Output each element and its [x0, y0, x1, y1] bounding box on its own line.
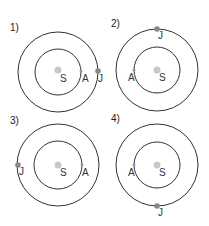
- diagram-4: 4) S A J: [111, 113, 198, 218]
- planet-a-label: A: [82, 167, 89, 178]
- sun-label: S: [60, 73, 67, 84]
- diagram-number: 2): [111, 18, 120, 29]
- planet-j-label: J: [158, 207, 163, 218]
- diagram-number: 3): [10, 115, 19, 126]
- sun-label: S: [159, 72, 166, 83]
- planet-a-label: A: [82, 73, 89, 84]
- orbit-diagrams: 1) S A J 2) S A J 3) S A J 4): [0, 0, 209, 226]
- diagram-1: 1) S A J: [10, 22, 103, 112]
- planet-a-label: A: [128, 72, 135, 83]
- diagram-2: 2) S A J: [111, 18, 198, 111]
- planet-a-label: A: [128, 167, 135, 178]
- planet-j-label: J: [158, 30, 163, 41]
- planet-j-label: J: [19, 166, 24, 177]
- sun-label: S: [159, 167, 166, 178]
- sun-label: S: [60, 167, 67, 178]
- diagram-number: 4): [111, 113, 120, 124]
- planet-j-label: J: [98, 73, 103, 84]
- diagram-number: 1): [10, 22, 19, 33]
- diagram-3: 3) S A J: [10, 115, 99, 206]
